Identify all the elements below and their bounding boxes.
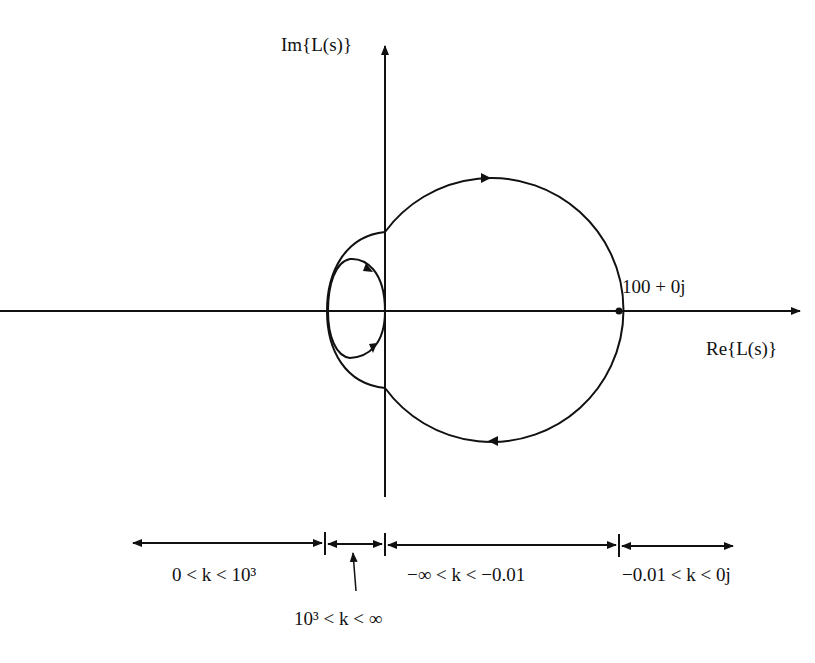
real-axis-label: Re{L(s)} xyxy=(706,338,777,360)
arrow-top-icon xyxy=(481,173,491,183)
pointer-arrow xyxy=(353,553,356,591)
imag-axis-label: Im{L(s)} xyxy=(281,34,352,56)
range-label-2: 10³ < k < ∞ xyxy=(294,608,382,630)
range-label-4: −0.01 < k < 0j xyxy=(622,564,731,586)
arrow-bottom-icon xyxy=(488,436,498,446)
point-marker xyxy=(616,308,623,315)
range-label-1: 0 < k < 10³ xyxy=(172,564,256,586)
point-label: 100 + 0j xyxy=(622,276,686,298)
range-label-3: −∞ < k < −0.01 xyxy=(407,564,525,586)
